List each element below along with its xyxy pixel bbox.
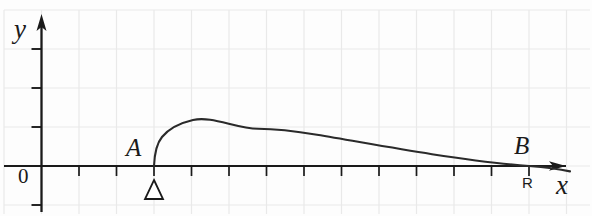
y-axis-ticks <box>32 49 42 205</box>
x-axis <box>4 161 566 171</box>
x-axis-ticks <box>79 166 529 176</box>
point-b-label: B <box>514 133 529 158</box>
y-axis <box>37 14 47 212</box>
tick-label-r: R <box>522 175 533 190</box>
grid-lines <box>4 10 590 214</box>
plot-canvas <box>0 0 592 216</box>
graph-figure: y x 0 A B R <box>0 0 592 216</box>
y-axis-label: y <box>14 16 26 43</box>
point-a-label: A <box>126 135 141 160</box>
origin-label: 0 <box>18 166 29 187</box>
x-axis-label: x <box>556 172 568 199</box>
delta-triangle-marker <box>145 180 163 199</box>
